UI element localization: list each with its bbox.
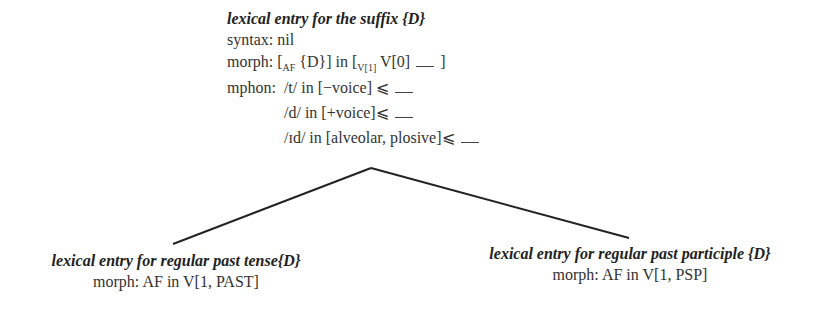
morph-close: ] [436, 53, 445, 70]
diagram-canvas: lexical entry for the suffix {D} syntax:… [0, 0, 820, 313]
root-mphon-rule-1: mphon: /t/ in [−voice] ⩽ [227, 80, 481, 105]
root-mphon-rule-2: /d/ in [+voice]⩽ [227, 105, 481, 130]
root-syntax: syntax: nil [227, 32, 481, 54]
edge-right [371, 168, 629, 238]
child-past-participle-morph: morph: AF in V[1, PSP] [470, 267, 790, 283]
morph-end: V[0] [376, 53, 414, 70]
mphon-rule-1-text: /t/ in [−voice] ⩽ [284, 79, 389, 96]
child-node-past-participle: lexical entry for regular past participl… [470, 245, 790, 283]
mphon-rule-3-gap [461, 141, 479, 143]
mphon-label: mphon: [227, 79, 276, 96]
morph-gap [416, 65, 434, 67]
child-past-tense-title: lexical entry for regular past tense{D} [26, 252, 326, 274]
mphon-rule-1-gap [395, 91, 413, 93]
morph-sub-v1: V[1] [357, 62, 376, 73]
root-mphon-rule-3: /ɪd/ in [alveolar, plosive]⩽ [227, 130, 481, 155]
mphon-rule-2-text: /d/ in [+voice]⩽ [284, 104, 389, 121]
child-node-past-tense: lexical entry for regular past tense{D} … [26, 252, 326, 290]
child-past-participle-title: lexical entry for regular past participl… [470, 245, 790, 267]
root-morph: morph: [AF {D}] in [V[1] V[0] ] [227, 54, 481, 80]
morph-sub-af: AF [283, 62, 296, 73]
morph-mid: {D}] in [ [295, 53, 357, 70]
mphon-rule-3-text: /ɪd/ in [alveolar, plosive]⩽ [284, 129, 455, 146]
edge-left [173, 168, 371, 244]
morph-label: morph: [ [227, 53, 283, 70]
root-node: lexical entry for the suffix {D} syntax:… [227, 10, 481, 155]
child-past-tense-morph: morph: AF in V[1, PAST] [26, 274, 326, 290]
mphon-rule-2-gap [395, 116, 413, 118]
root-title: lexical entry for the suffix {D} [227, 10, 481, 32]
